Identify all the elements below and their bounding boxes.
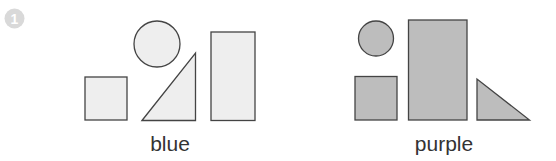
badge-number: 1 bbox=[11, 11, 19, 27]
blue-circle-shape bbox=[134, 21, 180, 67]
purple-group-label: purple bbox=[415, 132, 473, 155]
blue-group bbox=[85, 21, 255, 121]
blue-group-label: blue bbox=[150, 132, 190, 155]
purple-triangle-shape bbox=[477, 79, 530, 120]
purple-group bbox=[355, 20, 530, 120]
blue-tall-rectangle-shape bbox=[211, 32, 255, 121]
purple-circle-shape bbox=[359, 21, 394, 56]
purple-tall-rectangle-shape bbox=[409, 20, 468, 120]
shape-groups-figure: 1 blue purple bbox=[0, 0, 556, 161]
question-number-badge: 1 bbox=[5, 9, 25, 29]
blue-square-shape bbox=[85, 77, 127, 120]
purple-square-shape bbox=[355, 77, 397, 121]
